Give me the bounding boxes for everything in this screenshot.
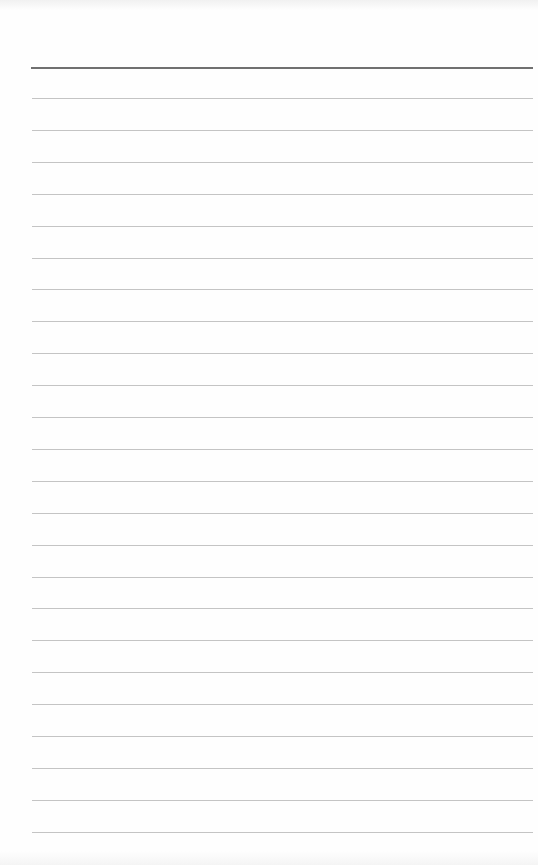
ruled-line [32, 162, 533, 163]
ruled-line [32, 481, 533, 482]
ruled-line [32, 800, 533, 801]
ruled-line [32, 672, 533, 673]
ruled-line [32, 194, 533, 195]
ruled-line [32, 130, 533, 131]
ruled-line [32, 98, 533, 99]
ruled-line [32, 545, 533, 546]
ruled-line [32, 832, 533, 833]
ruled-line [32, 640, 533, 641]
ruled-line [32, 258, 533, 259]
ruled-line [32, 321, 533, 322]
bottom-edge-bleedthrough [0, 851, 538, 865]
ruled-line [32, 704, 533, 705]
ruled-line [32, 385, 533, 386]
ruled-line [32, 768, 533, 769]
ruled-line [32, 417, 533, 418]
ruled-line [32, 289, 533, 290]
header-rule [31, 67, 533, 69]
ruled-line [32, 608, 533, 609]
ruled-line [32, 577, 533, 578]
ruled-line [32, 449, 533, 450]
lined-paper-page [0, 0, 538, 865]
ruled-line [32, 513, 533, 514]
top-edge-bleedthrough [0, 0, 538, 10]
ruled-line [32, 226, 533, 227]
ruled-line [32, 353, 533, 354]
ruled-line [32, 736, 533, 737]
